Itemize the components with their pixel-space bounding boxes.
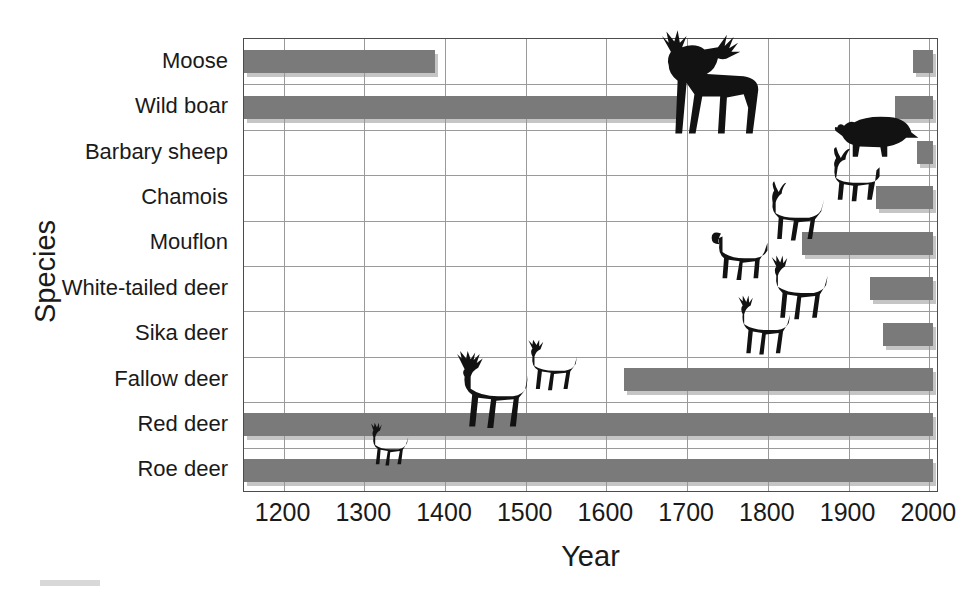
bar-white-tailed-deer — [870, 277, 933, 300]
bar-sika-deer — [883, 323, 933, 346]
x-tick-label-2000: 2000 — [888, 498, 966, 527]
x-tick-label-1900: 1900 — [808, 498, 888, 527]
red-deer-silhouette — [439, 349, 537, 433]
bar-chart: Species MooseWild boarBarbary sheepChamo… — [0, 0, 966, 595]
sika-deer-silhouette — [724, 294, 796, 359]
y-tick-label-wild-boar: Wild boar — [0, 95, 228, 117]
y-tick-label-fallow-deer: Fallow deer — [0, 368, 228, 390]
scan-artifact — [40, 580, 100, 586]
y-tick-label-red-deer: Red deer — [0, 413, 228, 435]
y-axis-tick-labels: MooseWild boarBarbary sheepChamoisMouflo… — [0, 0, 233, 595]
bar-roe-deer — [244, 459, 933, 482]
bar-moose-segment-2 — [913, 50, 933, 73]
x-tick-label-1400: 1400 — [404, 498, 484, 527]
y-tick-label-moose: Moose — [0, 50, 228, 72]
y-tick-label-mouflon: Mouflon — [0, 231, 228, 253]
y-tick-label-sika-deer: Sika deer — [0, 322, 228, 344]
x-tick-label-1200: 1200 — [243, 498, 323, 527]
horizontal-gridline — [244, 357, 937, 358]
y-tick-label-white-tailed-deer: White-tailed deer — [0, 277, 228, 299]
moose-silhouette — [637, 27, 772, 139]
y-tick-label-chamois: Chamois — [0, 186, 228, 208]
x-axis-title: Year — [243, 540, 938, 573]
roe-deer-silhouette — [359, 421, 413, 469]
x-tick-label-1300: 1300 — [323, 498, 403, 527]
bar-fallow-deer — [624, 368, 933, 391]
horizontal-gridline — [244, 221, 937, 222]
horizontal-gridline — [244, 402, 937, 403]
x-tick-label-1600: 1600 — [565, 498, 645, 527]
plot-area — [243, 38, 938, 492]
bar-red-deer — [244, 413, 933, 436]
x-tick-label-1700: 1700 — [646, 498, 726, 527]
y-tick-label-roe-deer: Roe deer — [0, 458, 228, 480]
x-tick-label-1800: 1800 — [727, 498, 807, 527]
horizontal-gridline — [244, 84, 937, 85]
bar-moose — [244, 50, 435, 73]
y-tick-label-barbary-sheep: Barbary sheep — [0, 141, 228, 163]
bar-wild-boar — [244, 96, 677, 119]
x-tick-label-1500: 1500 — [485, 498, 565, 527]
horizontal-gridline — [244, 448, 937, 449]
